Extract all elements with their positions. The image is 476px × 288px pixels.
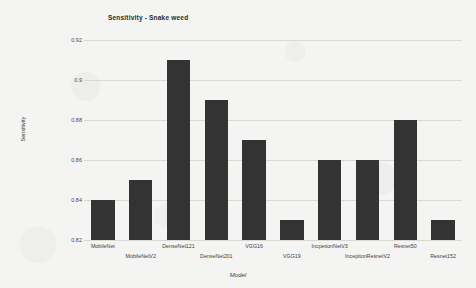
x-axis-category-label: VGG19 (283, 253, 301, 259)
gridline (84, 40, 462, 41)
bar (91, 200, 114, 240)
y-axis-tick-label: 0.82 (56, 237, 82, 243)
bar (394, 120, 417, 240)
x-axis-category-label: MobileNetV2 (126, 253, 156, 259)
x-axis-category-labels: MobileNetMobileNetV2DenseNet121DenseNet2… (84, 240, 462, 270)
plot-area (84, 40, 462, 240)
y-axis-tick-label: 0.92 (56, 37, 82, 43)
sensitivity-bar-chart: Sensitivity - Snake weed Sensitivity Mod… (0, 0, 476, 288)
bar (205, 100, 228, 240)
x-axis-category-label: VGG16 (245, 243, 263, 249)
y-axis-tick-label: 0.88 (56, 117, 82, 123)
x-axis-category-label: IncpetionNetV3 (312, 243, 348, 249)
x-axis-category-label: MobileNet (91, 243, 115, 249)
bar (356, 160, 379, 240)
y-axis-tick-label: 0.9 (56, 77, 82, 83)
bar (280, 220, 303, 240)
bar (431, 220, 454, 240)
x-axis-category-label: Resnet50 (394, 243, 417, 249)
y-axis-title: Sensitivity (20, 99, 26, 159)
bar (318, 160, 341, 240)
chart-title: Sensitivity - Snake weed (108, 14, 188, 21)
y-axis-tick-label: 0.84 (56, 197, 82, 203)
x-axis-category-label: IncepitonResnetV2 (345, 253, 390, 259)
y-axis-tick-label: 0.86 (56, 157, 82, 163)
x-axis-category-label: DenseNet201 (200, 253, 232, 259)
bar (242, 140, 265, 240)
x-axis-category-label: Resnet152 (430, 253, 456, 259)
x-axis-category-label: DenseNet121 (162, 243, 194, 249)
y-axis-tick-labels: 0.820.840.860.880.90.92 (52, 40, 82, 240)
gridline (84, 80, 462, 81)
bar (129, 180, 152, 240)
bar (167, 60, 190, 240)
x-axis-title: Model (0, 272, 476, 278)
